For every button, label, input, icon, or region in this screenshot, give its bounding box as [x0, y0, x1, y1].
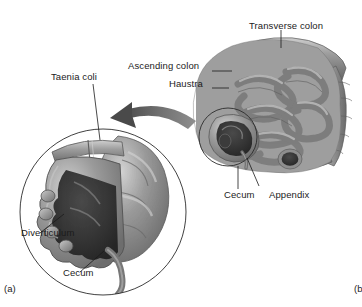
large-intestine-overview: [193, 38, 356, 180]
panel-marker-b: (b: [354, 283, 362, 294]
label-transverse-colon: Transverse colon: [249, 21, 323, 31]
cut-bowel-end: [278, 149, 302, 169]
label-diverticulum: Diverticulum: [21, 228, 74, 238]
label-cecum-overview: Cecum: [224, 190, 255, 200]
magnification-arrow: [110, 102, 196, 129]
label-taenia-coli: Taenia coli: [51, 72, 97, 82]
label-cecum-inset: Cecum: [63, 268, 94, 278]
panel-marker-a: (a): [4, 283, 16, 294]
label-appendix: Appendix: [269, 190, 309, 200]
label-ascending-colon: Ascending colon: [128, 61, 199, 71]
cecum-magnified-inset: [20, 129, 186, 295]
label-haustra: Haustra: [169, 79, 203, 89]
